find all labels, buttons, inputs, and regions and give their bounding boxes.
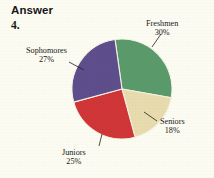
pie-label-sophomores: Sophomores 27% [26, 46, 67, 64]
pie-label-seniors-name: Seniors [160, 117, 185, 126]
pie-label-seniors-value: 18% [160, 126, 185, 135]
answer-figure-page: Answer 4. Freshmen 30% Sophomores 27% [0, 0, 214, 178]
pie-label-juniors-value: 25% [62, 157, 86, 166]
pie-label-juniors-name: Juniors [62, 148, 86, 157]
pie-label-sophomores-name: Sophomores [26, 46, 67, 55]
pie-label-seniors: Seniors 18% [160, 117, 185, 135]
pie-label-sophomores-value: 27% [26, 55, 67, 64]
pie-chart: Freshmen 30% Sophomores 27% Seniors 18% … [0, 0, 214, 178]
pie-chart-svg [0, 0, 214, 178]
pie-label-juniors: Juniors 25% [62, 148, 86, 166]
pie-label-freshmen: Freshmen 30% [146, 19, 178, 37]
leader-line-juniors [99, 134, 102, 146]
pie-label-freshmen-value: 30% [146, 28, 178, 37]
pie-label-freshmen-name: Freshmen [146, 19, 178, 28]
